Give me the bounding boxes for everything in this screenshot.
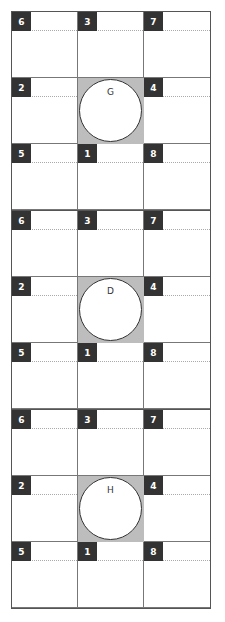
number-badge: 1 [78, 542, 97, 561]
center-hub: D [78, 277, 144, 343]
grid-cell-top-right: 7 [144, 12, 210, 78]
center-label: G [80, 87, 141, 97]
grid-cell-top-left: 6 [12, 211, 78, 277]
grid-cell-top-right: 7 [144, 410, 210, 476]
grid-cell-top-right: 7 [144, 211, 210, 277]
number-badge: 1 [78, 343, 97, 362]
number-badge: 7 [144, 410, 163, 429]
center-hub: G [78, 78, 144, 144]
grid-cell-top-left: 6 [12, 12, 78, 78]
circle-icon: D [79, 278, 142, 341]
circle-icon: G [79, 79, 142, 142]
number-badge: 2 [12, 476, 31, 495]
number-badge: 3 [78, 211, 97, 230]
number-badge: 4 [144, 476, 163, 495]
grid-cell-bottom-left: 5 [12, 144, 78, 210]
grid-cell-bottom-right: 8 [144, 144, 210, 210]
grid-cell-bottom-right: 8 [144, 542, 210, 608]
block-divider [12, 210, 210, 211]
number-badge: 7 [144, 211, 163, 230]
number-badge: 5 [12, 542, 31, 561]
grid-block-3: 6372H4518 [12, 410, 210, 609]
number-badge: 3 [78, 12, 97, 31]
grid-cell-middle-right: 4 [144, 78, 210, 144]
grid-cell-middle-right: 4 [144, 476, 210, 542]
block-divider [12, 409, 210, 410]
grid-cell-bottom-left: 5 [12, 542, 78, 608]
number-badge: 4 [144, 277, 163, 296]
grid-diagram: 6372G45186372D45186372H4518 [11, 11, 211, 609]
center-label: D [80, 286, 141, 296]
number-badge: 5 [12, 343, 31, 362]
number-badge: 6 [12, 410, 31, 429]
number-badge: 8 [144, 343, 163, 362]
number-badge: 4 [144, 78, 163, 97]
grid-cell-top-left: 6 [12, 410, 78, 476]
grid-block-2: 6372D4518 [12, 211, 210, 410]
grid-cell-top-center: 3 [78, 211, 144, 277]
grid-cell-bottom-center: 1 [78, 144, 144, 210]
number-badge: 3 [78, 410, 97, 429]
grid-cell-bottom-right: 8 [144, 343, 210, 409]
grid-cell-bottom-center: 1 [78, 343, 144, 409]
center-label: H [80, 485, 141, 495]
number-badge: 6 [12, 211, 31, 230]
number-badge: 6 [12, 12, 31, 31]
grid-cell-bottom-center: 1 [78, 542, 144, 608]
number-badge: 8 [144, 144, 163, 163]
number-badge: 2 [12, 277, 31, 296]
grid-cell-middle-left: 2 [12, 476, 78, 542]
center-hub: H [78, 476, 144, 542]
grid-cell-middle-right: 4 [144, 277, 210, 343]
grid-block-1: 6372G4518 [12, 12, 210, 211]
number-badge: 8 [144, 542, 163, 561]
number-badge: 2 [12, 78, 31, 97]
number-badge: 1 [78, 144, 97, 163]
number-badge: 7 [144, 12, 163, 31]
number-badge: 5 [12, 144, 31, 163]
grid-cell-top-center: 3 [78, 410, 144, 476]
grid-cell-middle-left: 2 [12, 277, 78, 343]
circle-icon: H [79, 477, 142, 540]
grid-cell-middle-left: 2 [12, 78, 78, 144]
grid-cell-bottom-left: 5 [12, 343, 78, 409]
grid-cell-top-center: 3 [78, 12, 144, 78]
